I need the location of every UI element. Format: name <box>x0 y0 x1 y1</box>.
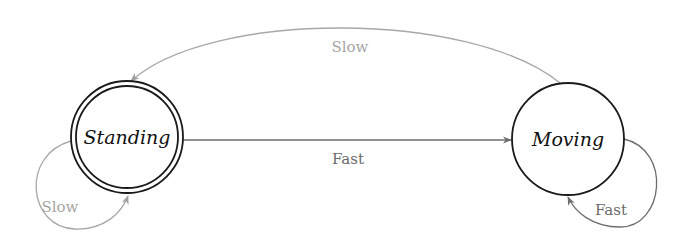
transition-moving-to-standing: Slow <box>131 28 560 83</box>
edge-label-slow-top: Slow <box>332 38 369 56</box>
state-label-moving: Moving <box>531 128 604 150</box>
state-label-standing: Standing <box>84 126 171 148</box>
state-moving: Moving <box>512 83 624 195</box>
edge-label-slow-loop: Slow <box>42 198 79 216</box>
edge-label-fast-middle: Fast <box>332 150 364 168</box>
transition-standing-to-moving: Fast <box>183 140 511 168</box>
edge-label-fast-loop: Fast <box>595 201 627 219</box>
state-standing: Standing <box>71 81 183 193</box>
state-diagram: Slow Fast Slow Fast Standing Moving <box>0 0 689 241</box>
